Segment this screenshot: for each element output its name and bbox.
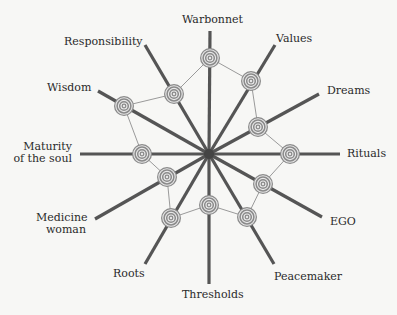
concentric-node (248, 117, 268, 137)
concentric-node (200, 48, 220, 68)
label-rituals: Rituals (347, 148, 386, 160)
concentric-node (132, 144, 152, 164)
label-medicine-woman: Medicine woman (36, 212, 86, 236)
label-dreams: Dreams (327, 85, 370, 97)
label-warbonnet: Warbonnet (182, 14, 243, 26)
node-links (124, 58, 290, 218)
label-values: Values (276, 33, 312, 45)
concentric-node (157, 167, 177, 187)
concentric-node (114, 96, 134, 116)
label-responsibility: Responsibility (64, 36, 143, 48)
concentric-node (241, 71, 261, 91)
concentric-node (199, 195, 219, 215)
label-wisdom: Wisdom (47, 82, 91, 94)
nodes (114, 48, 300, 228)
concentric-node (164, 84, 184, 104)
concentric-node (253, 174, 273, 194)
concentric-node (280, 144, 300, 164)
label-maturity-of-the-soul: Maturity of the soul (10, 141, 72, 165)
hub (204, 149, 214, 159)
label-peacemaker: Peacemaker (274, 271, 342, 283)
concentric-node (161, 208, 181, 228)
label-ego: EGO (330, 216, 356, 228)
label-roots: Roots (113, 268, 145, 280)
label-medicine-line2: woman (36, 224, 86, 236)
label-maturity-line2: of the soul (10, 153, 72, 165)
concentric-node (237, 207, 257, 227)
label-thresholds: Thresholds (182, 289, 244, 301)
